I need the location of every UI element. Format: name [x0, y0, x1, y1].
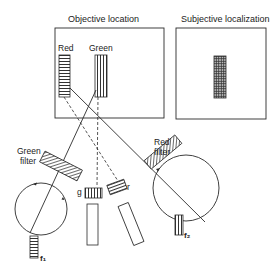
projector-g-body: [87, 204, 98, 245]
left-eye-rotation-arrow: [33, 183, 37, 186]
green-bar-label: Green: [89, 44, 113, 53]
red-bar-label: Red: [58, 44, 74, 53]
projector-r-head: [107, 179, 127, 195]
projector-r-label: r: [127, 183, 130, 192]
red-filter-label-line2: filter: [154, 148, 170, 157]
projector-g-label: g: [77, 188, 82, 197]
green-filter-label-line1: Green: [17, 147, 41, 156]
right-fixation-label: f₂: [184, 231, 190, 240]
green-stimulus-bar: [95, 55, 107, 97]
objective-frame: [55, 28, 164, 118]
green-filter: [40, 151, 83, 181]
projector-r-body: [118, 202, 144, 245]
green-filter-label-line2: filter: [20, 157, 36, 166]
fused-stimulus-bar: [214, 56, 226, 98]
subjective-localization-title: Subjective localization: [181, 15, 270, 24]
projector-g-head: [85, 188, 102, 198]
anaglyph-diagram: [0, 0, 280, 274]
right-eye: [153, 155, 219, 221]
objective-location-title: Objective location: [68, 15, 139, 24]
left-fixation-label: f₁: [40, 254, 46, 263]
right-fixation-bar: [175, 215, 183, 235]
left-fixation-bar: [30, 236, 38, 258]
right-eye-rotation-arrow: [156, 168, 160, 172]
red-filter-label-line1: Red: [154, 138, 170, 147]
projector-g-ray: [97, 97, 98, 187]
red-stimulus-bar: [59, 55, 70, 97]
